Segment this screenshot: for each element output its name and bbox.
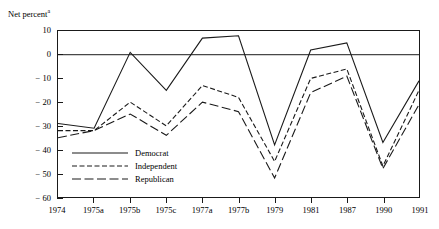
x-axis-tick-label: 1975c xyxy=(156,205,177,215)
y-axis-tick-mark xyxy=(57,198,63,199)
x-axis-tick-label: 1975b xyxy=(119,205,140,215)
x-axis-tick-label: 1977b xyxy=(228,205,249,215)
x-axis-tick-label: 1974 xyxy=(49,205,66,215)
x-axis-tick-mark xyxy=(166,198,167,203)
x-axis-tick-label: 1977a xyxy=(192,205,213,215)
x-axis-tick-label: 1981 xyxy=(303,205,320,215)
x-axis-tick-label: 1990 xyxy=(375,205,392,215)
x-axis-tick-label: 1975a xyxy=(83,205,104,215)
legend-label: Republican xyxy=(135,174,174,184)
y-axis-tick-label: − 10 xyxy=(36,74,51,83)
x-axis-tick-label: 1987 xyxy=(339,205,356,215)
x-axis-tick-mark xyxy=(275,198,276,203)
legend-swatch-line xyxy=(72,148,128,158)
x-axis-tick-mark xyxy=(239,198,240,203)
legend-item: Independent xyxy=(72,159,177,172)
legend-item: Democrat xyxy=(72,146,177,159)
y-axis-tick-label: − 20 xyxy=(36,98,51,107)
x-axis-tick-mark xyxy=(311,198,312,203)
y-axis-tick-label: 10 xyxy=(43,26,52,35)
x-axis-tick-label: 1991 xyxy=(412,205,429,215)
y-axis-tick-label: − 40 xyxy=(36,146,51,155)
x-axis-tick-mark xyxy=(130,198,131,203)
x-axis-tick-mark xyxy=(93,198,94,203)
x-axis-tick-mark xyxy=(384,198,385,203)
legend-item: Republican xyxy=(72,172,177,185)
y-axis-tick-label: − 60 xyxy=(36,194,51,203)
y-axis-tick-label: 0 xyxy=(47,50,51,59)
chart-legend: DemocratIndependentRepublican xyxy=(72,146,177,185)
legend-swatch-line xyxy=(72,174,128,184)
y-axis-labels: 100− 10− 20− 30− 40− 50− 60 xyxy=(0,0,51,229)
net-percent-line-chart: Net percenta 100− 10− 20− 30− 40− 50− 60… xyxy=(0,0,439,229)
y-axis-tick-label: − 30 xyxy=(36,122,51,131)
legend-label: Independent xyxy=(135,161,177,171)
x-axis-tick-mark xyxy=(347,198,348,203)
legend-label: Democrat xyxy=(135,148,169,158)
legend-swatch-line xyxy=(72,161,128,171)
y-axis-tick-label: − 50 xyxy=(36,170,51,179)
series-line-democrat xyxy=(58,36,419,145)
x-axis-tick-mark xyxy=(202,198,203,203)
x-axis-tick-label: 1979 xyxy=(266,205,283,215)
